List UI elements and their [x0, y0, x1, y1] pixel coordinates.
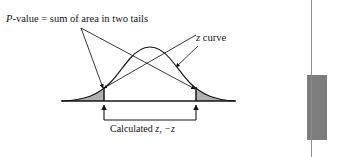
- right-margin-vertical-rule: [311, 0, 312, 157]
- z-curve-label: z curve: [196, 33, 226, 44]
- pvalue-leader-left: [81, 28, 103, 88]
- z-curve-line: [62, 47, 235, 101]
- z-curve-label-text: curve: [200, 32, 226, 43]
- pvalue-leader-right: [81, 28, 195, 89]
- calculated-z-label: Calculated z, −z: [110, 124, 175, 134]
- zcurve-leader: [176, 46, 198, 67]
- calculated-negative-z-variable: −z: [164, 123, 175, 134]
- right-margin-gray-block: [307, 75, 327, 140]
- calculated-prefix-text: Calculated: [110, 123, 155, 134]
- figure-container: P-value = sum of area in two tails z cur…: [0, 0, 340, 157]
- pvalue-annotation-label: P-value = sum of area in two tails: [6, 14, 148, 25]
- pvalue-annotation-text: -value = sum of area in two tails: [12, 13, 148, 24]
- right-tail-shaded-area: [196, 89, 235, 101]
- left-tail-shaded-area: [62, 89, 104, 101]
